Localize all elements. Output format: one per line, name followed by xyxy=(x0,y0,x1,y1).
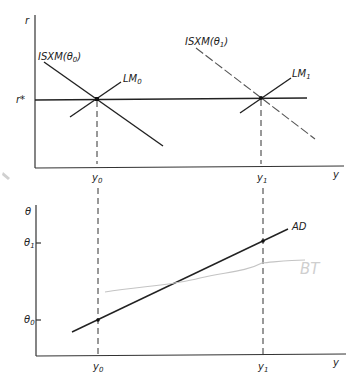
isxm-theta1-label: ISXM(θ1) xyxy=(185,36,228,49)
pencil-annotation-text: BT xyxy=(300,260,321,278)
r-star-label: r* xyxy=(16,94,25,105)
equilibrium-point-0 xyxy=(95,97,99,101)
ad-point-y1 xyxy=(261,239,265,243)
pencil-mark-icon xyxy=(2,172,10,180)
top-x-axis-label: y xyxy=(332,169,340,180)
bottom-y-axis-label: θ xyxy=(25,206,31,217)
bottom-panel: θ y θ1 θ0 AD y0 y1 BT xyxy=(2,172,346,374)
ad-point-y0 xyxy=(96,318,100,322)
lm0-label: LM0 xyxy=(123,73,142,86)
bottom-tick-y1: y1 xyxy=(257,361,268,374)
theta1-tick-label: θ1 xyxy=(24,237,35,250)
top-x-axis xyxy=(35,166,344,168)
equilibrium-point-1 xyxy=(259,96,263,100)
bottom-tick-y0: y0 xyxy=(92,361,104,374)
top-y-axis-label: r xyxy=(25,15,30,26)
isxm-theta1-curve xyxy=(196,48,315,139)
lm1-curve xyxy=(240,78,291,113)
theta0-tick-label: θ0 xyxy=(24,314,35,327)
bottom-x-axis xyxy=(36,354,346,356)
isxm-theta0-curve xyxy=(44,62,163,146)
ad-curve xyxy=(72,229,288,332)
top-tick-y1: y1 xyxy=(256,172,267,185)
pencil-scribble-line xyxy=(105,260,305,292)
is-lm-ad-diagram: r y r* ISXM(θ0) LM0 ISXM(θ1) LM1 y0 xyxy=(0,0,362,384)
top-panel: r y r* ISXM(θ0) LM0 ISXM(θ1) LM1 y0 xyxy=(16,15,344,185)
ad-label: AD xyxy=(291,221,307,232)
top-tick-y0: y0 xyxy=(91,172,103,185)
r-star-line xyxy=(35,98,307,100)
lm1-label: LM1 xyxy=(292,68,311,81)
bottom-x-axis-label: y xyxy=(332,357,340,368)
